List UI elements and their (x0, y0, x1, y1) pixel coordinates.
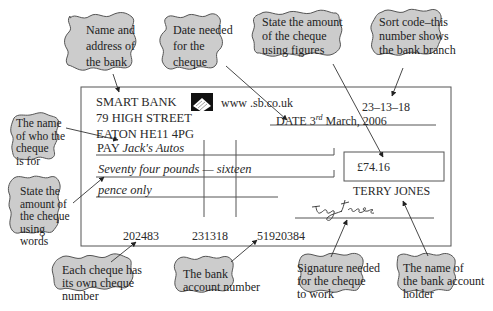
sort-code-number: 231318 (192, 229, 228, 244)
callout-bank-name-address: Name and address of the bank (86, 22, 135, 70)
account-number: 51920384 (257, 229, 305, 244)
payee-line: PAY Jack's Autos (97, 141, 184, 156)
date-rest: March, 2006 (326, 114, 387, 128)
amount-words-line2: pence only (98, 183, 152, 198)
cheque-number: 202483 (123, 229, 159, 244)
callout-amount-words: State the amount of the cheque using wor… (20, 185, 70, 248)
payee-name: Jack's Autos (122, 141, 184, 155)
amount-words-line1: Seventy four pounds — sixteen (98, 162, 251, 177)
callout-cheque-number: Each cheque has its own cheque number (62, 264, 142, 303)
bank-address-line1: 79 HIGH STREET (96, 111, 192, 126)
amount-figures: £74.16 (357, 160, 390, 175)
date-field: DATE 3rd March, 2006 (276, 110, 387, 129)
date-suffix: rd (316, 113, 323, 122)
bank-name: SMART BANK (96, 95, 177, 110)
callout-amount-figures: State the amount of the cheque using fig… (262, 15, 343, 57)
bank-address-line2: EATON HE11 4PG (96, 127, 194, 142)
callout-payee: The name of who the cheque is for (16, 117, 65, 167)
bank-logo (191, 93, 213, 112)
callout-sort-code: Sort code–this number shows the bank bra… (379, 15, 456, 57)
bank-website: www .sb.co.uk (221, 96, 293, 111)
callout-account-holder: The name of the bank account holder (403, 262, 484, 301)
pay-label: PAY (97, 141, 119, 155)
date-label: DATE (276, 114, 307, 128)
callout-account-number: The bank account number (183, 268, 260, 294)
callout-signature: Signature needed for the cheque to work (297, 262, 380, 301)
account-holder-name: TERRY JONES (353, 184, 430, 199)
callout-date: Date needed for the cheque (173, 22, 233, 70)
